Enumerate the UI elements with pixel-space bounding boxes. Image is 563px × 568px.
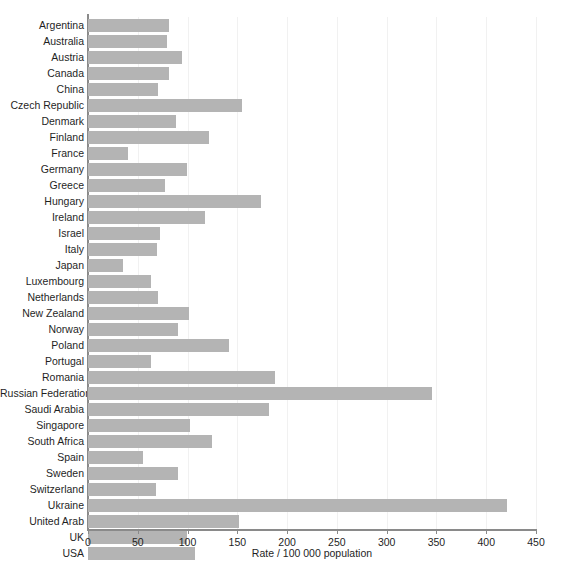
x-axis-tick xyxy=(138,529,139,534)
bar-chart: ArgentinaAustraliaAustriaCanadaChinaCzec… xyxy=(0,0,563,568)
bar[interactable] xyxy=(88,211,205,224)
bar-row[interactable] xyxy=(88,385,536,401)
bar[interactable] xyxy=(88,227,160,240)
y-axis-label: Denmark xyxy=(0,113,84,129)
bar[interactable] xyxy=(88,243,157,256)
x-axis-tick xyxy=(88,529,89,534)
bar[interactable] xyxy=(88,83,158,96)
bar[interactable] xyxy=(88,387,432,400)
bar-row[interactable] xyxy=(88,113,536,129)
bar-row[interactable] xyxy=(88,289,536,305)
bar-row[interactable] xyxy=(88,273,536,289)
bar[interactable] xyxy=(88,371,275,384)
bar[interactable] xyxy=(88,195,261,208)
bar[interactable] xyxy=(88,339,229,352)
bar-row[interactable] xyxy=(88,241,536,257)
y-axis-label: Romania xyxy=(0,369,84,385)
bar[interactable] xyxy=(88,67,169,80)
bar-row[interactable] xyxy=(88,65,536,81)
bar-row[interactable] xyxy=(88,497,536,513)
bar-row[interactable] xyxy=(88,337,536,353)
y-axis-label: Ukraine xyxy=(0,497,84,513)
bar-row[interactable] xyxy=(88,145,536,161)
y-axis-label: Switzerland xyxy=(0,481,84,497)
x-axis-tick xyxy=(188,529,189,534)
bar[interactable] xyxy=(88,275,151,288)
y-axis-label: China xyxy=(0,81,84,97)
bar[interactable] xyxy=(88,499,507,512)
bar[interactable] xyxy=(88,35,167,48)
bar-row[interactable] xyxy=(88,321,536,337)
gridline xyxy=(536,17,537,529)
bar-row[interactable] xyxy=(88,513,536,529)
bar-row[interactable] xyxy=(88,417,536,433)
bar[interactable] xyxy=(88,99,242,112)
bar[interactable] xyxy=(88,483,156,496)
bar-row[interactable] xyxy=(88,161,536,177)
x-axis-tick xyxy=(387,529,388,534)
y-axis-label: Italy xyxy=(0,241,84,257)
bar-row[interactable] xyxy=(88,209,536,225)
bar-row[interactable] xyxy=(88,465,536,481)
bar-row[interactable] xyxy=(88,193,536,209)
bar[interactable] xyxy=(88,323,178,336)
y-axis-label: Norway xyxy=(0,321,84,337)
y-axis-label: Ireland xyxy=(0,209,84,225)
bar[interactable] xyxy=(88,307,189,320)
bar[interactable] xyxy=(88,163,187,176)
bar-row[interactable] xyxy=(88,433,536,449)
y-axis-category-labels: ArgentinaAustraliaAustriaCanadaChinaCzec… xyxy=(0,17,84,529)
bar[interactable] xyxy=(88,291,158,304)
bar[interactable] xyxy=(88,51,182,64)
bar-row[interactable] xyxy=(88,97,536,113)
bar[interactable] xyxy=(88,403,269,416)
bar-row[interactable] xyxy=(88,49,536,65)
bar[interactable] xyxy=(88,435,212,448)
y-axis-label: New Zealand xyxy=(0,305,84,321)
plot-area xyxy=(88,17,536,529)
x-axis-tick xyxy=(337,529,338,534)
y-axis-label: Greece xyxy=(0,177,84,193)
bar-row[interactable] xyxy=(88,129,536,145)
bar[interactable] xyxy=(88,115,176,128)
bar[interactable] xyxy=(88,179,165,192)
x-axis-tick xyxy=(486,529,487,534)
bar[interactable] xyxy=(88,131,209,144)
bar-row[interactable] xyxy=(88,225,536,241)
bar[interactable] xyxy=(88,467,178,480)
x-axis-tick xyxy=(287,529,288,534)
bar[interactable] xyxy=(88,451,143,464)
bar-row[interactable] xyxy=(88,17,536,33)
bar[interactable] xyxy=(88,419,190,432)
bar-row[interactable] xyxy=(88,257,536,273)
y-axis-label: Netherlands xyxy=(0,289,84,305)
y-axis-label: Israel xyxy=(0,225,84,241)
y-axis-label: UK xyxy=(0,529,84,545)
y-axis-label: Luxembourg xyxy=(0,273,84,289)
bar-row[interactable] xyxy=(88,481,536,497)
bar[interactable] xyxy=(88,147,128,160)
y-axis-label: Poland xyxy=(0,337,84,353)
y-axis-label: Czech Republic xyxy=(0,97,84,113)
bar[interactable] xyxy=(88,515,239,528)
y-axis-label: Russian Federation xyxy=(0,385,84,401)
y-axis-label: Japan xyxy=(0,257,84,273)
bar-row[interactable] xyxy=(88,369,536,385)
bar-row[interactable] xyxy=(88,401,536,417)
bar-row[interactable] xyxy=(88,33,536,49)
bar-row[interactable] xyxy=(88,353,536,369)
bar-row[interactable] xyxy=(88,449,536,465)
bar-row[interactable] xyxy=(88,81,536,97)
y-axis-label: Spain xyxy=(0,449,84,465)
y-axis-label: Australia xyxy=(0,33,84,49)
bar-row[interactable] xyxy=(88,529,536,545)
y-axis-label: Argentina xyxy=(0,17,84,33)
y-axis-label: France xyxy=(0,145,84,161)
y-axis-label: Saudi Arabia xyxy=(0,401,84,417)
bar-row[interactable] xyxy=(88,305,536,321)
bar[interactable] xyxy=(88,355,151,368)
bar[interactable] xyxy=(88,19,169,32)
bar-row[interactable] xyxy=(88,177,536,193)
bar[interactable] xyxy=(88,259,123,272)
y-axis-label: United Arab xyxy=(0,513,84,529)
